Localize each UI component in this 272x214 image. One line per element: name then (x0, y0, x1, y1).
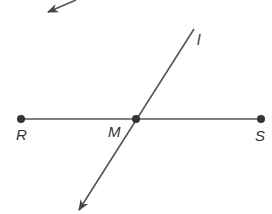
point-r (17, 115, 25, 123)
point-m (132, 115, 140, 123)
label-s: S (255, 127, 265, 144)
partial-arrow-top-left (48, 0, 76, 12)
point-s (257, 115, 265, 123)
label-l: l (197, 31, 201, 48)
geometry-diagram: l R M S (0, 0, 272, 214)
label-r: R (16, 126, 27, 143)
label-m: M (108, 123, 121, 140)
